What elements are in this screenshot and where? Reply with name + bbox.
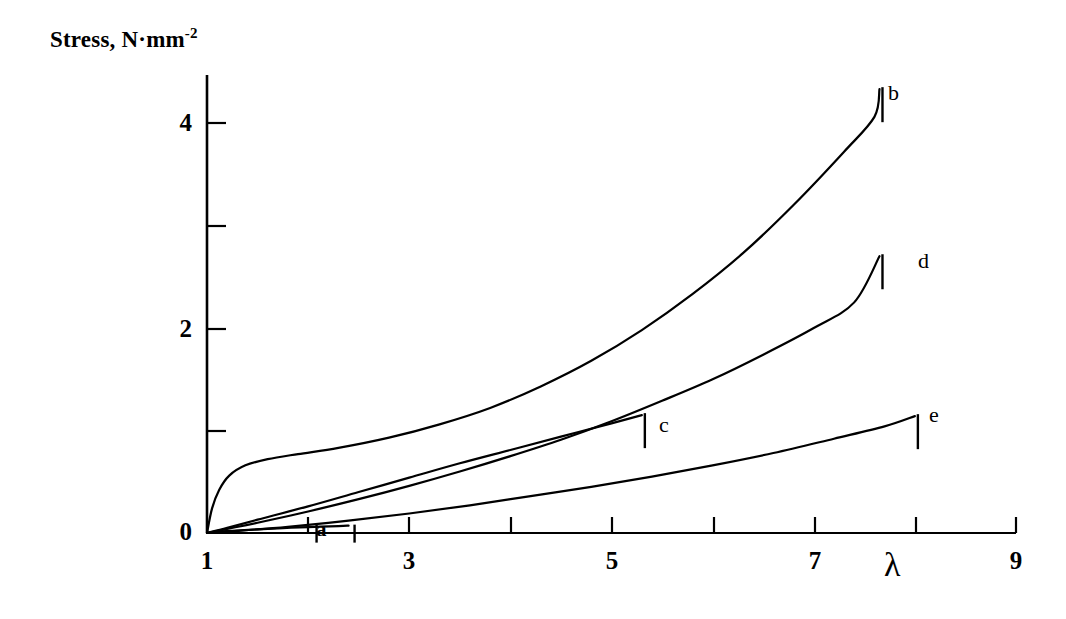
x-axis-ticks <box>308 517 1016 533</box>
y-tick-label-4: 4 <box>152 110 192 135</box>
x-tick-label-3: 3 <box>389 548 429 573</box>
x-tick-label-1: 1 <box>187 548 227 573</box>
stress-stretch-chart: Stress, N·mm-2 4 2 0 1 3 5 7 9 <box>0 0 1066 619</box>
x-tick-label-9: 9 <box>996 548 1036 573</box>
y-tick-label-0: 0 <box>152 519 192 544</box>
curve-end-markers <box>317 87 918 542</box>
curve-label-a: a <box>316 519 327 540</box>
curve-label-e: e <box>929 404 939 426</box>
axes <box>207 75 1016 533</box>
curve-label-b: b <box>888 82 899 104</box>
curve-b <box>207 89 879 533</box>
curve-e <box>207 416 915 533</box>
curve-label-c: c <box>659 414 669 436</box>
x-tick-label-7: 7 <box>795 548 835 573</box>
data-curves <box>207 89 915 533</box>
curve-d <box>207 256 879 533</box>
curve-label-d: d <box>918 250 929 272</box>
curve-c <box>207 415 642 533</box>
y-axis-ticks <box>207 123 226 431</box>
x-tick-label-5: 5 <box>592 548 632 573</box>
y-tick-label-2: 2 <box>152 316 192 341</box>
x-axis-title: λ <box>884 548 901 582</box>
